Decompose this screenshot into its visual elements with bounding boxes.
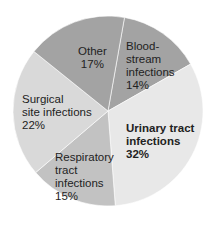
label-respiratory-pct: 15% (55, 190, 114, 203)
label-surgical-pct: 22% (22, 119, 92, 132)
label-surgical: Surgical site infections 22% (22, 93, 92, 132)
label-respiratory-l3: infections (55, 177, 114, 190)
label-respiratory: Respiratory tract infections 15% (55, 151, 114, 203)
label-other: Other 17% (78, 45, 107, 71)
label-blood: Blood- stream infections 14% (126, 40, 175, 92)
label-surgical-l2: site infections (22, 106, 92, 119)
label-blood-l1: Blood- (126, 40, 175, 53)
label-urinary: Urinary tract infections 32% (126, 122, 194, 161)
label-blood-l3: infections (126, 66, 175, 79)
label-respiratory-l1: Respiratory (55, 151, 114, 164)
label-respiratory-l2: tract (55, 164, 114, 177)
label-urinary-l2: infections (126, 135, 194, 148)
label-other-pct: 17% (78, 58, 107, 71)
label-blood-l2: stream (126, 53, 175, 66)
label-blood-pct: 14% (126, 79, 175, 92)
label-urinary-l1: Urinary tract (126, 122, 194, 135)
label-other-name: Other (78, 45, 107, 58)
label-surgical-l1: Surgical (22, 93, 92, 106)
label-urinary-pct: 32% (126, 148, 194, 161)
